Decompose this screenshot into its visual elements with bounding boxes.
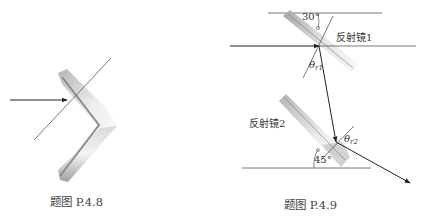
theta-r1-label: θr1 [309, 59, 323, 72]
caption-p48: 题图 P.4.8 [50, 193, 103, 209]
corner-mirror [58, 69, 117, 128]
corner-mirror-lower [58, 126, 117, 182]
mirror-2-label: 反射镜2 [249, 115, 285, 130]
theta-r2-label: θr2 [344, 133, 358, 146]
angle-45-label: 45° [314, 154, 332, 165]
caption-p49: 题图 P.4.9 [284, 196, 337, 212]
mirror-1-label: 反射镜1 [336, 29, 372, 44]
angle-30-label: 30° [302, 11, 320, 22]
figure-p48 [10, 58, 117, 182]
outgoing-ray [336, 142, 410, 183]
